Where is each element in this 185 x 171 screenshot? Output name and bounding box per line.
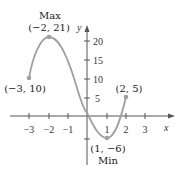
x-tick-label: 3 [143, 124, 148, 135]
x-tick-label: −1 [63, 124, 74, 135]
max-label: Max [39, 10, 61, 21]
x-tick-label: −2 [44, 124, 55, 135]
x-axis-arrow [168, 114, 175, 119]
min-label: Min [98, 155, 118, 166]
point-left-endpoint [27, 76, 32, 81]
left-point-label: (−3, 10) [4, 83, 46, 94]
chart: −3 −2 −1 1 2 3 20 15 10 5 x y Max (−2, 2… [0, 0, 185, 171]
right-point-label: (2, 5) [116, 83, 143, 94]
y-tick-label: 20 [93, 36, 103, 47]
y-axis-label: y [76, 22, 82, 33]
y-tick-label: 10 [93, 74, 103, 85]
x-tick-label: 1 [105, 124, 110, 135]
min-point-label: (1, −6) [90, 143, 125, 154]
y-tick-label: 15 [93, 55, 103, 66]
y-axis-arrow [85, 25, 90, 32]
x-axis-label: x [163, 122, 169, 133]
point-min [105, 136, 110, 141]
point-right-endpoint [124, 95, 129, 100]
x-tick-label: −3 [24, 124, 35, 135]
max-point-label: (−2, 21) [28, 22, 70, 33]
y-tick-label: 5 [95, 93, 100, 104]
point-max [47, 35, 52, 40]
x-tick-label: 2 [124, 124, 129, 135]
